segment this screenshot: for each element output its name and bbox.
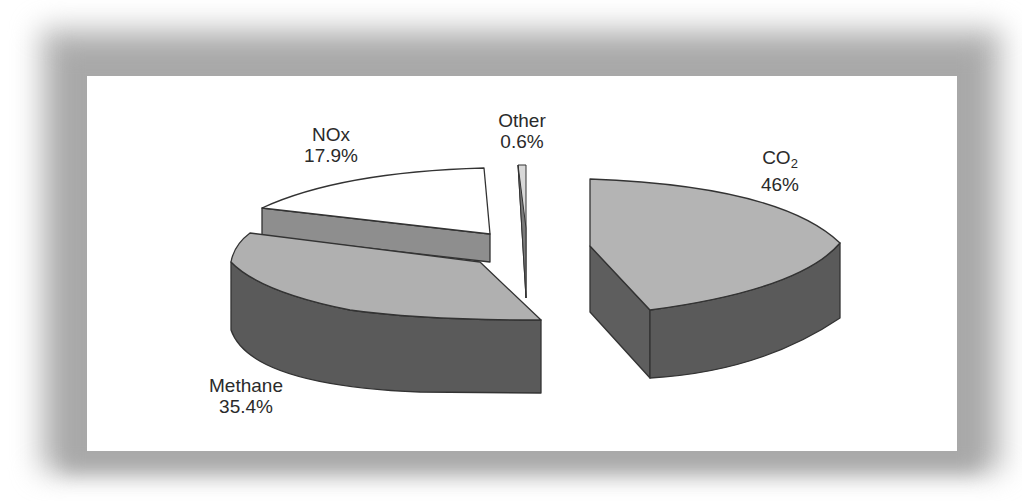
pie-chart-3d bbox=[0, 0, 1022, 501]
slice-other bbox=[518, 165, 526, 298]
slice-co2 bbox=[590, 179, 840, 378]
label-co2-name: CO2 bbox=[740, 147, 820, 174]
label-other-value: 0.6% bbox=[482, 131, 562, 152]
label-other-name: Other bbox=[482, 110, 562, 131]
slice-methane bbox=[231, 233, 541, 393]
label-co2: CO2 46% bbox=[740, 147, 820, 195]
label-co2-value: 46% bbox=[740, 174, 820, 195]
label-methane-name: Methane bbox=[196, 375, 296, 396]
label-co2-text: CO bbox=[762, 147, 791, 168]
label-methane: Methane 35.4% bbox=[196, 375, 296, 417]
label-methane-value: 35.4% bbox=[196, 396, 296, 417]
label-co2-subscript: 2 bbox=[791, 156, 798, 171]
label-other: Other 0.6% bbox=[482, 110, 562, 152]
label-nox-value: 17.9% bbox=[281, 145, 381, 166]
label-nox: NOx 17.9% bbox=[281, 124, 381, 166]
label-nox-name: NOx bbox=[281, 124, 381, 145]
